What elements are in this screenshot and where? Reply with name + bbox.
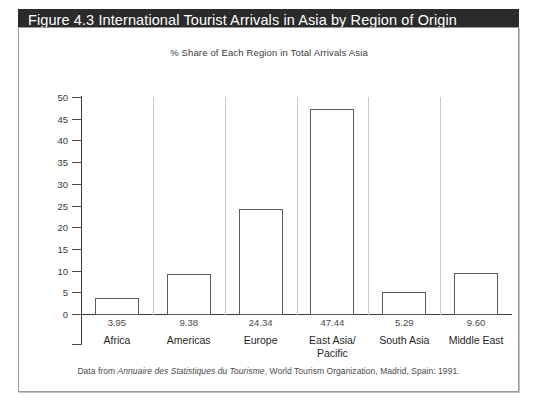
- y-axis-tick-label: 5: [46, 287, 68, 298]
- y-axis-tick-label: 0: [46, 309, 68, 320]
- category-label: Americas: [153, 334, 225, 347]
- bar-europe[interactable]: [239, 209, 283, 315]
- category-label: South Asia: [368, 334, 440, 347]
- bar-middle-east[interactable]: [454, 273, 498, 315]
- y-axis-tick-label: 15: [46, 243, 68, 254]
- bars-layer: [81, 97, 512, 315]
- y-axis-tick-label: 45: [46, 113, 68, 124]
- bar-value-label: 47.44: [297, 316, 369, 329]
- page-title: Figure 4.3 International Tourist Arrival…: [28, 12, 457, 28]
- category-column: 24.34Europe: [225, 316, 297, 347]
- y-axis-tick-labels: 50454035302520151050: [44, 0, 68, 410]
- category-column: 5.29South Asia: [368, 316, 440, 347]
- category-column: 9.60Middle East: [440, 316, 512, 347]
- y-axis-tick-label: 20: [46, 222, 68, 233]
- category-label: Africa: [81, 334, 153, 347]
- bar-south-asia[interactable]: [382, 292, 426, 315]
- chart-subtitle: % Share of Each Region in Total Arrivals…: [0, 47, 538, 58]
- bar-value-label: 24.34: [225, 316, 297, 329]
- bar-value-label: 3.95: [81, 316, 153, 329]
- source-note: Data from Annuaire des Statistiques du T…: [19, 366, 518, 376]
- bar-value-label: 9.38: [153, 316, 225, 329]
- source-prefix: Data from: [77, 366, 117, 376]
- source-publication: Annuaire des Statistiques du Tourisme: [118, 366, 265, 376]
- category-label: Europe: [225, 334, 297, 347]
- bar-americas[interactable]: [167, 274, 211, 315]
- category-column: 3.95Africa: [81, 316, 153, 347]
- source-suffix: , World Tourism Organization, Madrid, Sp…: [265, 366, 460, 376]
- y-axis-tick-label: 10: [46, 265, 68, 276]
- y-axis-tick-label: 25: [46, 200, 68, 211]
- category-column: 47.44East Asia/ Pacific: [297, 316, 369, 360]
- category-column: 9.38Americas: [153, 316, 225, 347]
- y-axis-tick-label: 35: [46, 157, 68, 168]
- bar-east-asia-pacific[interactable]: [310, 109, 354, 315]
- bar-africa[interactable]: [95, 298, 139, 315]
- category-label: East Asia/ Pacific: [297, 334, 369, 360]
- y-axis-tick-label: 40: [46, 135, 68, 146]
- bar-value-label: 9.60: [440, 316, 512, 329]
- y-axis-tick-label: 50: [46, 92, 68, 103]
- bar-value-label: 5.29: [368, 316, 440, 329]
- y-axis-tick-label: 30: [46, 178, 68, 189]
- category-label: Middle East: [440, 334, 512, 347]
